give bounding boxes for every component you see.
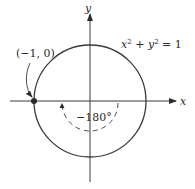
point-marker (31, 98, 37, 104)
eq-plus: + (132, 38, 148, 51)
point-pointer-arrow (26, 63, 32, 97)
angle-label: −180° (76, 111, 112, 124)
x-axis-label: x (180, 95, 187, 108)
angle-arrow-icon (60, 103, 65, 108)
eq-equals: = 1 (159, 38, 182, 51)
circle-equation: x2 + y2 = 1 (121, 38, 182, 51)
y-axis-label: y (84, 2, 92, 15)
point-label: (−1, 0) (16, 47, 55, 60)
unit-circle-diagram: y x (−1, 0) −180° x2 + y2 = 1 (0, 0, 195, 189)
